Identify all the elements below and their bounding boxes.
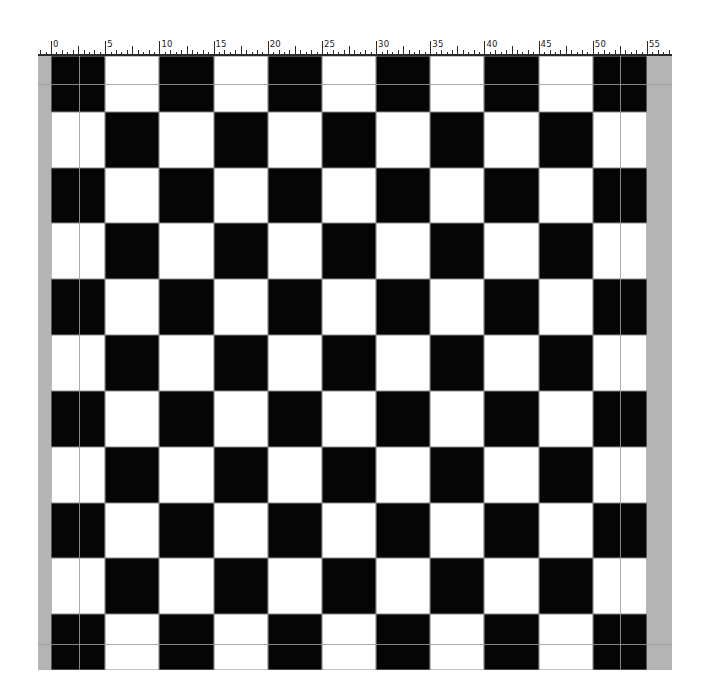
ruler-minor-tick: [506, 50, 507, 55]
board-cell-black: [376, 168, 430, 224]
ruler-minor-tick: [631, 52, 632, 55]
ruler-minor-tick: [176, 52, 177, 55]
ruler-minor-tick: [620, 46, 621, 55]
board-cell-black: [484, 391, 538, 447]
board-cell-black: [322, 558, 376, 614]
horizontal-ruler: 0510152025303540455055: [0, 0, 701, 56]
board-cell-black: [214, 223, 268, 279]
ruler-minor-tick: [544, 52, 545, 55]
right-margin-strip: [647, 56, 672, 670]
board-cell-black: [105, 223, 159, 279]
ruler-minor-tick: [187, 46, 188, 55]
ruler-minor-tick: [468, 52, 469, 55]
ruler-label: 50: [595, 40, 606, 49]
board-cell-black: [159, 279, 213, 335]
ruler-minor-tick: [273, 52, 274, 55]
ruler-minor-tick: [289, 50, 290, 55]
ruler-minor-tick: [295, 46, 296, 55]
board-cell-black: [322, 223, 376, 279]
ruler-minor-tick: [121, 52, 122, 55]
board-cell-black: [376, 391, 430, 447]
board-cell-black: [322, 335, 376, 391]
board-cell-black: [268, 391, 322, 447]
board-cell-white: [268, 112, 322, 168]
ruler-minor-tick: [365, 50, 366, 55]
board-cell-black: [539, 447, 593, 503]
board-cell-white: [376, 447, 430, 503]
ruler-minor-tick: [604, 50, 605, 55]
board-cell-white: [539, 391, 593, 447]
board-cell-white: [430, 168, 484, 224]
ruler-minor-tick: [241, 46, 242, 55]
ruler-major-tick: [268, 41, 269, 55]
ruler-minor-tick: [615, 50, 616, 55]
ruler-minor-tick: [257, 50, 258, 55]
ruler-minor-tick: [165, 52, 166, 55]
board-cell-white: [322, 503, 376, 559]
checkerboard-canvas[interactable]: [51, 56, 647, 670]
ruler-label: 15: [216, 40, 227, 49]
ruler-minor-tick: [116, 50, 117, 55]
board-cell-white: [376, 335, 430, 391]
ruler-major-tick: [51, 41, 52, 55]
board-cell-black: [159, 503, 213, 559]
ruler-minor-tick: [143, 52, 144, 55]
ruler-minor-tick: [344, 50, 345, 55]
board-cell-black: [322, 447, 376, 503]
board-cell-black: [105, 558, 159, 614]
ruler-label: 35: [432, 40, 443, 49]
ruler-label: 5: [107, 40, 113, 49]
board-cell-white: [214, 503, 268, 559]
ruler-minor-tick: [78, 46, 79, 55]
board-cell-white: [268, 558, 322, 614]
board-cell-white: [105, 391, 159, 447]
ruler-minor-tick: [495, 50, 496, 55]
ruler-minor-tick: [609, 52, 610, 55]
board-cell-white: [268, 335, 322, 391]
board-cell-black: [159, 614, 213, 670]
ruler-minor-tick: [398, 50, 399, 55]
ruler-minor-tick: [149, 50, 150, 55]
board-cell-black: [484, 279, 538, 335]
ruler-minor-tick: [300, 50, 301, 55]
ruler-label: 30: [378, 40, 389, 49]
ruler-minor-tick: [522, 52, 523, 55]
ruler-minor-tick: [512, 46, 513, 55]
ruler-major-tick: [376, 41, 377, 55]
horizontal-guide-line[interactable]: [38, 84, 672, 85]
ruler-minor-tick: [474, 50, 475, 55]
board-cell-white: [539, 503, 593, 559]
ruler-minor-tick: [625, 50, 626, 55]
ruler-minor-tick: [208, 52, 209, 55]
ruler-major-tick: [430, 41, 431, 55]
ruler-minor-tick: [306, 52, 307, 55]
board-cell-black: [105, 447, 159, 503]
board-cell-white: [430, 279, 484, 335]
board-cell-white: [322, 279, 376, 335]
board-cell-white: [376, 223, 430, 279]
ruler-minor-tick: [56, 52, 57, 55]
ruler-minor-tick: [360, 52, 361, 55]
board-cell-white: [268, 223, 322, 279]
ruler-minor-tick: [246, 50, 247, 55]
ruler-label: 45: [541, 40, 552, 49]
ruler-minor-tick: [463, 50, 464, 55]
ruler-minor-tick: [528, 50, 529, 55]
board-cell-black: [484, 168, 538, 224]
board-cell-black: [268, 279, 322, 335]
board-cell-white: [484, 335, 538, 391]
ruler-label: 40: [486, 40, 497, 49]
board-cell-white: [268, 447, 322, 503]
vertical-guide-line[interactable]: [620, 56, 621, 670]
ruler-major-tick: [539, 41, 540, 55]
ruler-minor-tick: [658, 50, 659, 55]
vertical-guide-line[interactable]: [79, 56, 80, 670]
ruler-minor-tick: [170, 50, 171, 55]
ruler-minor-tick: [403, 46, 404, 55]
board-cell-white: [159, 558, 213, 614]
board-cell-white: [376, 558, 430, 614]
ruler-minor-tick: [582, 50, 583, 55]
ruler-minor-tick: [452, 50, 453, 55]
horizontal-guide-line[interactable]: [38, 644, 672, 645]
ruler-minor-tick: [533, 52, 534, 55]
